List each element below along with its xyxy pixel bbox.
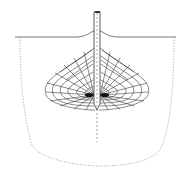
diagram-canvas xyxy=(0,0,186,178)
dense-core-right xyxy=(101,93,109,97)
ground-rod-diagram xyxy=(0,0,186,178)
dense-core-left xyxy=(85,93,93,97)
rod-top-cap xyxy=(95,11,100,13)
